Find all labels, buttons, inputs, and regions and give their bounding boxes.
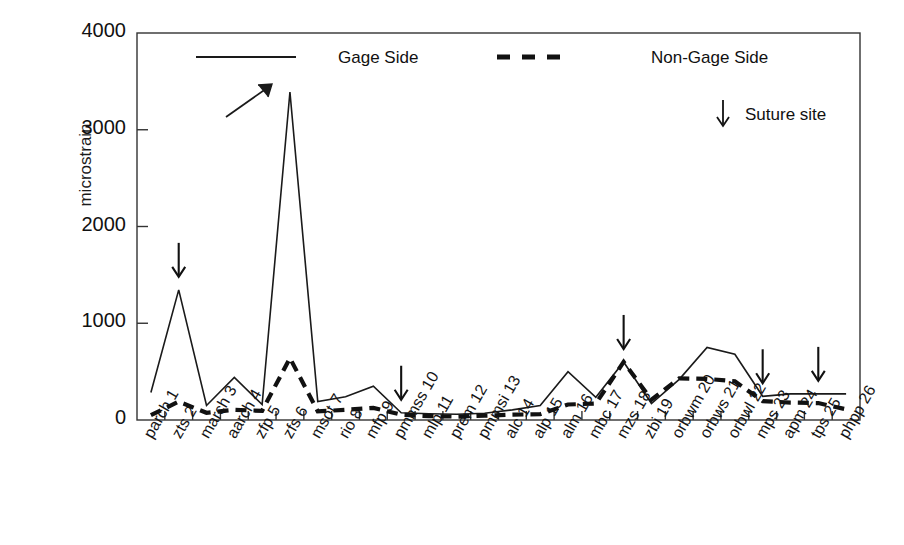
series-line-gage-side bbox=[151, 92, 846, 414]
suture-arrow-icon bbox=[812, 347, 825, 381]
legend-suture-arrow-icon bbox=[717, 100, 729, 126]
suture-arrow-icon bbox=[172, 243, 185, 277]
plot-canvas bbox=[0, 0, 904, 545]
suture-arrow-icon bbox=[395, 366, 408, 400]
plot-frame bbox=[137, 33, 860, 420]
suture-arrow-icon bbox=[756, 349, 769, 383]
strain-chart-figure: microstrain 4000 3000 2000 1000 0 Gage S… bbox=[0, 0, 904, 545]
suture-arrow-icon bbox=[617, 315, 630, 349]
y-tick-marks bbox=[137, 130, 148, 324]
peak-callout-arrow-icon bbox=[226, 84, 272, 117]
